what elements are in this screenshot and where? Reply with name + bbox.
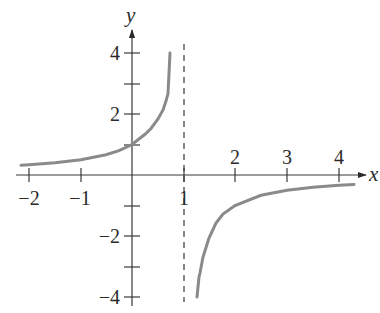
y-tick-label: 2 <box>110 103 120 125</box>
y-tick-label: 4 <box>110 42 120 64</box>
x-tick-label: −2 <box>18 187 39 209</box>
x-tick-label: 2 <box>230 146 240 168</box>
curve-left-branch <box>21 53 170 165</box>
x-axis-label: x <box>368 162 379 186</box>
y-tick-label: −4 <box>99 286 120 308</box>
x-tick-label: 3 <box>282 146 292 168</box>
curve-right-branch <box>197 184 354 297</box>
x-tick-labels: −2 −1 1 2 3 4 <box>18 146 344 209</box>
function-graph: −2 −1 1 2 3 4 4 2 −2 −4 x y <box>0 0 380 313</box>
x-tick-label: −1 <box>69 187 90 209</box>
x-tick-label: 4 <box>334 146 344 168</box>
y-tick-label: −2 <box>99 225 120 247</box>
x-tick-label: 1 <box>179 187 189 209</box>
y-axis-label: y <box>124 3 136 27</box>
